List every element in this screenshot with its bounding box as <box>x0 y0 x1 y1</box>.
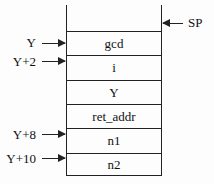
stack-cell-n1: n1 <box>67 128 161 153</box>
pointer-arrow-y-plus-8-icon <box>42 134 65 135</box>
stack-cell-i: i <box>67 55 161 80</box>
stack-right-wall <box>161 5 162 176</box>
stack-bottom-line <box>67 175 162 176</box>
pointer-label-y: Y <box>0 35 36 51</box>
pointer-label-y-plus-8: Y+8 <box>0 127 36 143</box>
stack-cell-ret-addr: ret_addr <box>67 104 161 128</box>
stack-cell-y: Y <box>67 80 161 104</box>
stack-cell-gcd: gcd <box>67 31 161 55</box>
sp-arrow-icon <box>163 23 183 24</box>
sp-label: SP <box>188 15 212 31</box>
stack-cell-n2: n2 <box>67 153 161 175</box>
stack-diagram: gcd i Y ret_addr n1 n2 SP Y Y+2 Y+8 Y+10 <box>0 0 214 184</box>
pointer-arrow-y-icon <box>42 43 65 44</box>
pointer-label-y-plus-10: Y+10 <box>0 151 36 167</box>
pointer-label-y-plus-2: Y+2 <box>0 54 36 70</box>
pointer-arrow-y-plus-10-icon <box>42 158 65 159</box>
pointer-arrow-y-plus-2-icon <box>42 61 65 62</box>
